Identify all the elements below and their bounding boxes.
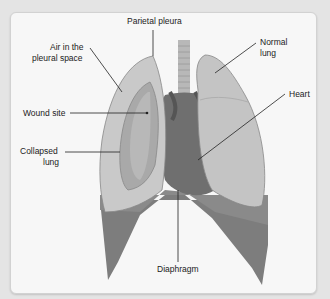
label-wound-site: Wound site (23, 108, 65, 118)
label-collapsed-lung-2: lung (43, 157, 59, 167)
label-parietal-pleura: Parietal pleura (127, 16, 182, 26)
trachea (178, 40, 190, 95)
label-air-pleural-space-2: pleural space (32, 53, 83, 63)
label-diaphragm: Diaphragm (157, 264, 199, 274)
label-air-pleural-space-1: Air in the (50, 42, 84, 52)
label-heart: Heart (289, 89, 310, 99)
label-collapsed-lung-1: Collapsed (20, 146, 58, 156)
wound-site-marker (146, 112, 149, 115)
label-normal-lung-1: Normal (260, 37, 287, 47)
label-normal-lung-2: lung (260, 48, 276, 58)
